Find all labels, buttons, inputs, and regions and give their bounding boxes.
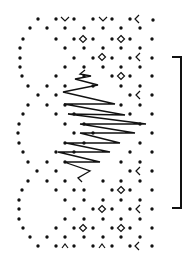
stitch-dot	[54, 37, 57, 40]
stitch-dot	[150, 93, 153, 96]
stitch-dot	[21, 37, 24, 40]
stitch-dot	[36, 244, 39, 247]
diamond-symbol-icon	[99, 206, 106, 213]
stitch-dot	[150, 188, 153, 191]
stitch-dot	[138, 160, 141, 163]
stitch-dot	[36, 17, 39, 20]
stitch-dot	[54, 150, 57, 153]
stitch-dot	[18, 56, 21, 59]
less-than-symbol-icon	[136, 91, 140, 99]
stitch-dot	[101, 217, 104, 220]
stitch-dot	[138, 235, 141, 238]
stitch-dot	[54, 74, 57, 77]
stitch-dot	[101, 235, 104, 238]
stitch-dot	[128, 56, 131, 59]
stitch-dot	[45, 26, 48, 29]
diamond-symbol-icon	[99, 54, 106, 61]
less-than-symbol-icon	[136, 167, 140, 175]
stitch-dot	[28, 235, 31, 238]
stitch-dot	[138, 65, 141, 68]
stitch-dot	[138, 46, 141, 49]
stitch-dot	[128, 37, 131, 40]
stitch-dot	[150, 37, 153, 40]
stitch-dot	[128, 93, 131, 96]
stitch-dot	[101, 198, 104, 201]
stitch-dot	[16, 131, 19, 134]
stitch-dot	[72, 17, 75, 20]
stitch-dot	[128, 150, 131, 153]
stitch-dot	[119, 103, 122, 106]
stitch-dot	[72, 56, 75, 59]
stitch-dot	[35, 169, 38, 172]
stitch-dot	[26, 160, 29, 163]
stitch-dot	[110, 244, 113, 247]
less-than-symbol-icon	[135, 242, 139, 250]
stitch-dot	[63, 235, 66, 238]
repeat-bracket-line	[172, 57, 181, 208]
stitch-dot	[119, 179, 122, 182]
stitch-dot	[54, 226, 57, 229]
stitch-dot	[110, 226, 113, 229]
stitch-dot	[54, 244, 57, 247]
stitch-dot	[21, 150, 24, 153]
stitch-dot	[150, 74, 153, 77]
stitch-dot	[26, 84, 29, 87]
stitch-dot	[72, 226, 75, 229]
stitch-dot	[54, 112, 57, 115]
stitch-dot	[91, 226, 94, 229]
stitch-dot	[151, 18, 154, 21]
stitch-dot	[138, 26, 141, 29]
diamond-symbol-icon	[80, 36, 87, 43]
stitch-dot	[91, 17, 94, 20]
stitch-dot	[20, 188, 23, 191]
stitch-dot	[91, 56, 94, 59]
stitch-dot	[128, 17, 131, 20]
stitch-dot	[45, 179, 48, 182]
stitch-dot	[82, 217, 85, 220]
stitch-dot	[119, 235, 122, 238]
stitch-dot	[20, 74, 23, 77]
stitch-dot	[128, 188, 131, 191]
less-than-symbol-icon	[136, 53, 140, 61]
stitch-dot	[63, 84, 66, 87]
diamond-symbol-icon	[80, 225, 87, 232]
stitch-dot	[119, 26, 122, 29]
diamond-symbol-icon	[118, 187, 125, 194]
stitch-dot	[119, 198, 122, 201]
v-symbol-icon	[99, 17, 107, 21]
stitch-dot	[150, 150, 153, 153]
stitch-dot	[17, 122, 20, 125]
repeat-bracket	[172, 57, 181, 208]
stitch-dot	[26, 103, 29, 106]
stitch-dot	[128, 226, 131, 229]
stitch-dot	[82, 188, 85, 191]
caret-symbol-icon	[62, 244, 68, 248]
stitch-dot	[119, 46, 122, 49]
stitch-dot	[63, 26, 66, 29]
stitch-dot	[82, 65, 85, 68]
diamond-symbol-icon	[118, 36, 125, 43]
stitch-dot	[138, 103, 141, 106]
stitch-dot	[119, 217, 122, 220]
zigzag-line	[58, 70, 146, 182]
stitch-dot	[138, 141, 141, 144]
stitch-dot	[150, 112, 153, 115]
stitch-dot	[21, 226, 24, 229]
stitch-dot	[72, 244, 75, 247]
stitch-dot	[91, 207, 94, 210]
stitch-dot	[45, 160, 48, 163]
stitch-dot	[72, 188, 75, 191]
stitch-dot	[72, 131, 75, 134]
stitch-dot	[150, 169, 153, 172]
stitch-dot	[54, 93, 57, 96]
stitch-dot	[63, 198, 66, 201]
stitch-dot	[150, 56, 153, 59]
stitch-dot	[18, 46, 21, 49]
stitch-dot	[21, 112, 24, 115]
stitch-dot	[138, 198, 141, 201]
stitch-dot	[28, 26, 31, 29]
stitch-dot	[138, 217, 141, 220]
stitch-dot	[82, 26, 85, 29]
stitch-dot	[63, 217, 66, 220]
stitch-dot	[110, 56, 113, 59]
